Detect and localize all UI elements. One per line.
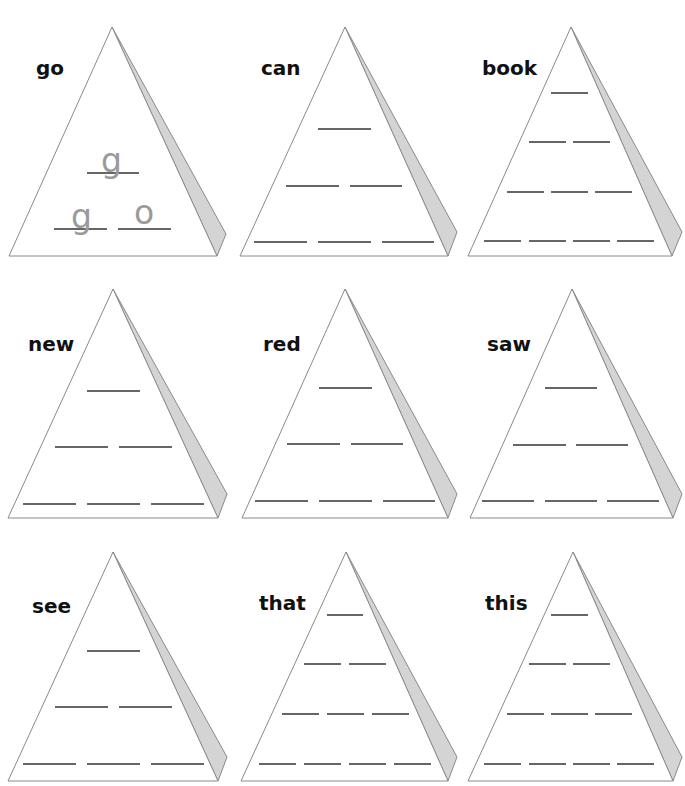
- hint-letter: o: [134, 196, 154, 229]
- pyramid-shape: [460, 545, 685, 786]
- pyramid-word: book: [482, 58, 537, 78]
- pyramid-word: go: [36, 58, 64, 78]
- pyramid-word: can: [261, 58, 301, 78]
- pyramid-this: this: [460, 545, 685, 786]
- pyramid-new: new: [0, 282, 229, 544]
- hint-letter: g: [101, 144, 122, 177]
- pyramid-word: new: [28, 334, 74, 354]
- pyramid-word: see: [32, 596, 71, 616]
- pyramid-shape: [0, 545, 229, 786]
- pyramid-shape: [231, 545, 460, 786]
- pyramid-word: red: [263, 334, 301, 354]
- pyramid-see: see: [0, 545, 229, 786]
- pyramid-red: red: [231, 282, 460, 544]
- pyramid-shape: [231, 282, 460, 544]
- pyramid-word: saw: [487, 334, 531, 354]
- pyramid-book: book: [460, 20, 685, 282]
- pyramid-go: go g g o: [0, 20, 229, 282]
- pyramid-saw: saw: [460, 282, 685, 544]
- pyramid-word: this: [485, 593, 528, 613]
- pyramid-shape: [0, 282, 229, 544]
- pyramid-word: that: [259, 593, 306, 613]
- pyramid-can: can: [231, 20, 460, 282]
- hint-letter: g: [71, 200, 92, 233]
- pyramid-shape: [460, 282, 685, 544]
- pyramid-that: that: [231, 545, 460, 786]
